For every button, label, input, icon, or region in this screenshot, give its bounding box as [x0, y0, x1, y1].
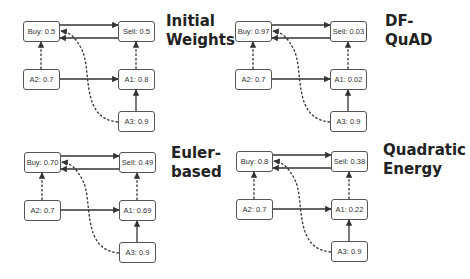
node-buy: Buy: 0.5	[23, 21, 60, 42]
node-a2: A2: 0.7	[236, 199, 273, 220]
panel-quadratic-energy: Buy: 0.8 Sell: 0.38 A2: 0.7 A1: 0.22 A3:…	[213, 130, 448, 269]
node-a1: A1: 0.69	[119, 200, 156, 221]
panel-title: DF-QuAD	[385, 12, 447, 50]
node-buy: Buy: 0.8	[236, 151, 273, 172]
node-buy: Buy: 0.70	[24, 152, 61, 173]
node-sell: Sell: 0.49	[119, 152, 156, 173]
edge-a3-to-buy	[273, 31, 330, 122]
node-a3: A3: 0.9	[331, 241, 368, 262]
node-buy: Buy: 0.97	[235, 21, 272, 42]
node-a3: A3: 0.9	[118, 111, 155, 132]
node-sell: Sell: 0.03	[330, 21, 367, 42]
node-a3: A3: 0.9	[119, 242, 156, 263]
node-a1: A1: 0.8	[118, 69, 155, 90]
panel-title: Quadratic Energy	[383, 141, 466, 179]
node-sell: Sell: 0.38	[331, 151, 368, 172]
node-a1: A1: 0.22	[331, 199, 368, 220]
panel-euler-based: Buy: 0.70 Sell: 0.49 A2: 0.7 A1: 0.69 A3…	[1, 131, 236, 270]
node-a2: A2: 0.7	[235, 69, 272, 90]
panel-df-quad: Buy: 0.97 Sell: 0.03 A2: 0.7 A1: 0.02 A3…	[212, 0, 447, 139]
panel-initial-weights: Buy: 0.5 Sell: 0.5 A2: 0.7 A1: 0.8 A3: 0…	[0, 0, 235, 139]
node-a1: A1: 0.02	[330, 69, 367, 90]
node-a3: A3: 0.9	[330, 111, 367, 132]
edge-a3-to-buy	[274, 161, 331, 252]
node-sell: Sell: 0.5	[118, 21, 155, 42]
node-a2: A2: 0.7	[23, 69, 60, 90]
edge-a3-to-buy	[62, 162, 119, 253]
edge-a3-to-buy	[61, 31, 118, 122]
node-a2: A2: 0.7	[24, 200, 61, 221]
